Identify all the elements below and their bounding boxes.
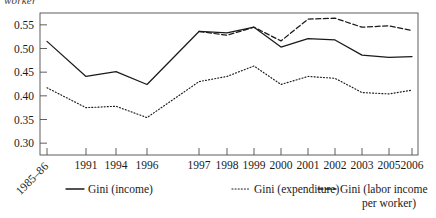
chart-figure: worker 0.300.350.400.450.500.55 1985–861…	[0, 0, 436, 218]
y-tick-label: 0.30	[14, 137, 34, 149]
y-axis-tick-labels: 0.300.350.400.450.500.55	[14, 19, 34, 149]
x-tick-label: 2003	[351, 159, 374, 171]
series-line	[199, 18, 412, 41]
chart-legend: Gini (income)Gini (expenditure)Gini (lab…	[66, 183, 428, 210]
cut-off-axis-title: worker	[4, 0, 36, 6]
y-axis-ticks	[40, 25, 47, 143]
y-tick-label: 0.55	[14, 19, 34, 31]
y-tick-label: 0.35	[14, 114, 34, 126]
x-tick-label: 1985–86	[13, 160, 50, 197]
x-tick-label: 1997	[188, 159, 211, 171]
x-tick-label: 2002	[324, 159, 347, 171]
x-tick-label: 1996	[136, 159, 159, 171]
y-tick-label: 0.50	[14, 43, 34, 55]
y-tick-label: 0.45	[14, 66, 34, 78]
x-tick-label: 1998	[216, 159, 239, 171]
x-tick-label: 1991	[75, 159, 98, 171]
x-tick-label: 1999	[243, 159, 266, 171]
legend-label: Gini (labor income	[340, 183, 428, 196]
legend-label: Gini (income)	[88, 183, 153, 196]
legend-label-line2: per worker)	[362, 197, 416, 210]
x-tick-label: 2006	[401, 159, 424, 171]
x-tick-label: 2001	[297, 159, 320, 171]
x-tick-label: 1994	[105, 159, 128, 171]
x-axis-ticks	[47, 148, 412, 155]
x-tick-label: 2000	[270, 159, 293, 171]
data-series-layer	[47, 18, 412, 117]
x-tick-label: 2005	[378, 159, 401, 171]
line-chart: 0.300.350.400.450.500.55 1985–8619911994…	[0, 0, 436, 218]
y-tick-label: 0.40	[14, 90, 34, 102]
series-line	[47, 27, 412, 84]
